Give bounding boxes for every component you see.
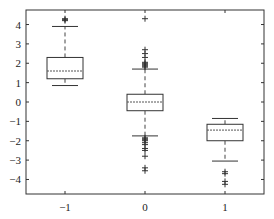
y-tick-label: 0 xyxy=(16,96,22,108)
boxplot-chart: −4−3−2−101234−101 xyxy=(0,0,274,219)
box xyxy=(47,57,83,78)
y-tick-label: 4 xyxy=(16,19,22,31)
y-tick-label: 2 xyxy=(16,57,22,69)
y-tick-label: −4 xyxy=(9,173,21,185)
box xyxy=(207,124,243,140)
x-tick-label: 1 xyxy=(222,201,228,213)
plot-area: −4−3−2−101234−101 xyxy=(9,10,264,213)
x-tick-label: 0 xyxy=(142,201,148,213)
y-tick-label: −1 xyxy=(9,115,21,127)
y-tick-label: −2 xyxy=(9,135,21,147)
y-tick-label: −3 xyxy=(9,154,21,166)
y-tick-label: 1 xyxy=(16,77,22,89)
x-tick-label: −1 xyxy=(59,201,71,213)
y-tick-label: 3 xyxy=(16,38,22,50)
